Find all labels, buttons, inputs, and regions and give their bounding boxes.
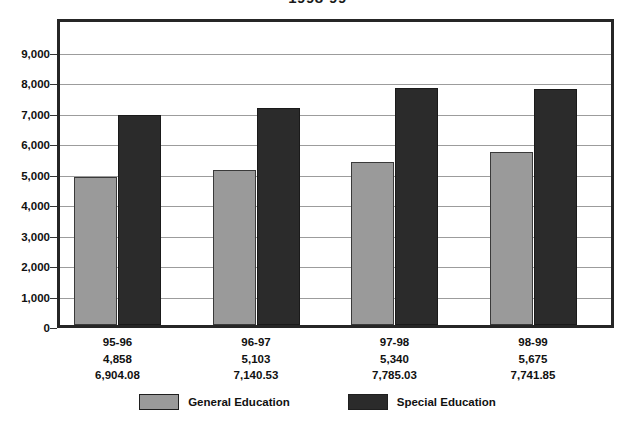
bar-general-96-97	[213, 170, 256, 325]
y-axis-tick-label: 8,000	[2, 78, 50, 90]
chart-legend: General Education Special Education	[0, 394, 635, 410]
x-axis-group-label-98-99: 98-995,6757,741.85	[468, 334, 599, 384]
gridline	[60, 84, 611, 85]
bar-general-98-99	[490, 152, 533, 325]
y-axis: 9,0008,0007,0006,0005,0004,0003,0002,000…	[0, 0, 50, 438]
y-axis-tick-mark	[50, 267, 57, 268]
y-axis-tick-mark	[50, 145, 57, 146]
bar-special-97-98	[395, 88, 438, 325]
y-axis-tick-label: 6,000	[2, 139, 50, 151]
y-axis-tick-label: 2,000	[2, 261, 50, 273]
legend-item-special: Special Education	[348, 394, 496, 410]
y-axis-tick-label: 3,000	[2, 231, 50, 243]
chart-title: 1998-99	[0, 0, 635, 6]
plot-area	[57, 19, 614, 328]
x-axis-label-general: 5,675	[468, 351, 599, 368]
y-axis-tick-label: 1,000	[2, 292, 50, 304]
chart-title-clip: 1998-99	[0, 0, 635, 14]
gridline	[60, 54, 611, 55]
x-axis-group-label-97-98: 97-985,3407,785.03	[329, 334, 460, 384]
x-axis-label-year: 96-97	[191, 334, 322, 351]
x-axis-group-label-96-97: 96-975,1037,140.53	[191, 334, 322, 384]
x-axis-group-label-95-96: 95-964,8586,904.08	[52, 334, 183, 384]
y-axis-tick-mark	[50, 237, 57, 238]
bar-special-95-96	[118, 115, 161, 325]
y-axis-tick-mark	[50, 84, 57, 85]
bar-special-98-99	[534, 89, 577, 325]
legend-label-special: Special Education	[397, 396, 496, 408]
x-axis-label-year: 97-98	[329, 334, 460, 351]
bar-general-97-98	[351, 162, 394, 325]
bar-special-96-97	[257, 108, 300, 325]
x-axis-label-year: 98-99	[468, 334, 599, 351]
y-axis-tick-label: 0	[2, 322, 50, 334]
y-axis-tick-mark	[50, 176, 57, 177]
legend-label-general: General Education	[188, 396, 290, 408]
y-axis-tick-label: 5,000	[2, 170, 50, 182]
x-axis-label-special: 6,904.08	[52, 367, 183, 384]
y-axis-tick-mark	[50, 115, 57, 116]
x-axis-label-special: 7,785.03	[329, 367, 460, 384]
y-axis-tick-mark	[50, 298, 57, 299]
x-axis-label-general: 5,103	[191, 351, 322, 368]
x-axis-label-special: 7,140.53	[191, 367, 322, 384]
y-axis-tick-mark	[50, 54, 57, 55]
legend-swatch-general-icon	[139, 394, 179, 410]
legend-item-general: General Education	[139, 394, 290, 410]
x-axis-label-year: 95-96	[52, 334, 183, 351]
y-axis-tick-label: 4,000	[2, 200, 50, 212]
bar-general-95-96	[74, 177, 117, 325]
plot-inner	[60, 22, 611, 325]
y-axis-tick-mark	[50, 206, 57, 207]
legend-swatch-special-icon	[348, 394, 388, 410]
x-axis-label-general: 4,858	[52, 351, 183, 368]
chart-page: { "title": "1998-99", "colors": { "gener…	[0, 0, 635, 438]
y-axis-tick-label: 9,000	[2, 48, 50, 60]
y-axis-tick-mark	[50, 328, 57, 329]
x-axis-label-general: 5,340	[329, 351, 460, 368]
y-axis-tick-label: 7,000	[2, 109, 50, 121]
x-axis-label-special: 7,741.85	[468, 367, 599, 384]
